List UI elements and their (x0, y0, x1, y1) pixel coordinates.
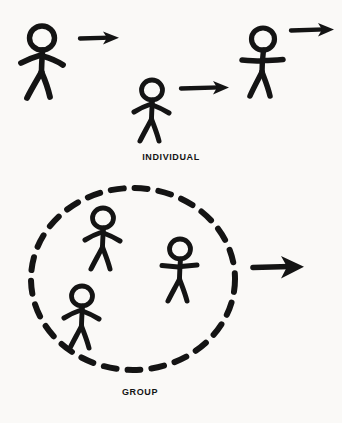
group-label: GROUP (122, 387, 158, 397)
group-figure-2 (162, 239, 197, 301)
individual-section (21, 23, 334, 141)
individual-figure-2 (134, 80, 169, 141)
group-dashed-oval (31, 188, 235, 370)
diagram-canvas: INDIVIDUAL GROUP (0, 0, 342, 423)
stick-figure-diagram-svg (0, 0, 342, 423)
individual-figure-3 (242, 28, 283, 96)
individual-arrow-1 (80, 32, 119, 45)
individual-label: INDIVIDUAL (142, 152, 200, 162)
group-arrow (253, 256, 304, 279)
individual-figure-1 (21, 26, 63, 98)
individual-arrow-3 (291, 23, 334, 37)
group-figure-1 (85, 208, 120, 269)
group-section (31, 188, 304, 370)
individual-arrow-2 (181, 81, 229, 95)
group-figure-3 (64, 286, 99, 348)
